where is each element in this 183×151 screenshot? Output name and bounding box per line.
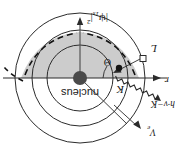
label-wavefunction-suffix: | (90, 13, 92, 25)
label-photon-energy: h·ν−K (151, 99, 175, 109)
nucleus-dot (73, 71, 87, 85)
open-square-marker (140, 56, 146, 62)
vertical-axis-arrowhead (77, 17, 83, 25)
label-angular-momentum: L (151, 43, 157, 54)
label-electron-velocity: Ve (147, 124, 156, 136)
velocity-vector-arrowhead (133, 121, 141, 129)
label-wavefunction-subscript: 1s (93, 10, 99, 18)
radius-arrowhead (153, 75, 161, 81)
label-electron-velocity-symbol: V (150, 127, 156, 137)
dashed-density-arc-far-right (4, 67, 23, 81)
label-nucleus: nucleus (61, 87, 99, 98)
label-wavefunction-prefix: |ψ (99, 13, 108, 25)
label-electron-velocity-subscript: e (147, 124, 150, 132)
label-angle-theta: Θ (104, 57, 111, 67)
diagram-rotated-group: nucleus r L K Θ h·ν−K Ve |ψ1s|2 (0, 0, 183, 151)
electron-dot (116, 65, 122, 71)
label-kinetic-energy: K (117, 84, 124, 95)
label-wavefunction-power: 2 (87, 18, 91, 26)
label-wavefunction-density: |ψ1s|2 (87, 10, 108, 25)
label-radius: r (165, 75, 169, 86)
physics-diagram-figure: Atomic electron scattering diagram (rota… (0, 0, 183, 151)
